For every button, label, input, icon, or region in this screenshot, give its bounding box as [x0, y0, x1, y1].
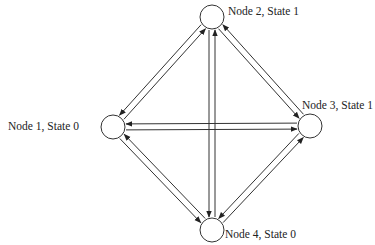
edge-arrow-node1-to-node2	[124, 29, 206, 120]
edge-arrow-node4-to-node3	[223, 138, 303, 223]
node-circle-node1	[101, 115, 125, 139]
edges-group	[120, 25, 304, 223]
node-label-node1: Node 1, State 0	[8, 121, 79, 133]
node-circle-node3	[298, 114, 322, 138]
edge-arrow-node4-to-node1	[124, 134, 205, 218]
edge-arrow-node3-to-node1	[126, 123, 297, 124]
edge-arrow-node1-to-node4	[120, 139, 201, 223]
edge-arrow-node2-to-node1	[120, 25, 202, 116]
node-label-node2: Node 2, State 1	[228, 6, 299, 18]
edge-arrow-node3-to-node2	[223, 25, 304, 115]
node-label-node4: Node 4, State 0	[225, 229, 296, 241]
edge-arrow-node2-to-node3	[219, 29, 300, 119]
node-circle-node4	[200, 218, 224, 242]
node-label-node3: Node 3, State 1	[302, 100, 373, 112]
edge-arrow-node1-to-node3	[126, 129, 297, 130]
edge-arrow-node3-to-node4	[219, 133, 299, 218]
node-circle-node2	[200, 5, 224, 29]
